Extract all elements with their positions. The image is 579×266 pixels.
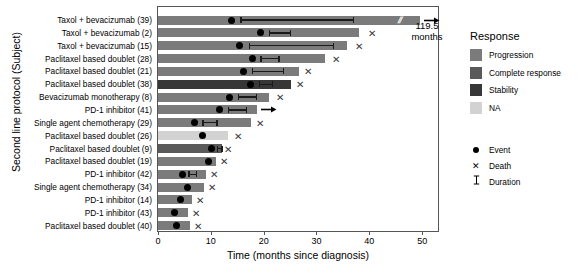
x-tick-mark [158, 232, 159, 235]
death-marker: ✕ [220, 157, 228, 166]
death-marker: ✕ [332, 55, 340, 64]
subject-bar [158, 54, 325, 63]
y-tick-label: PD-1 inhibitor (14) [18, 196, 152, 205]
legend-swatch [470, 84, 482, 96]
duration-start-cap [260, 56, 261, 62]
death-marker: ✕ [276, 93, 284, 102]
legend-swatch [470, 49, 482, 61]
y-tick-label: Paclitaxel based doublet (38) [18, 80, 152, 89]
duration-line [259, 84, 272, 85]
x-tick-mark [316, 232, 317, 235]
death-marker: ✕ [355, 42, 363, 51]
death-marker: ✕ [194, 222, 202, 231]
x-tick-mark [264, 232, 265, 235]
event-marker [249, 55, 256, 62]
duration-start-cap [202, 120, 203, 126]
annotation-line-2: months [404, 31, 450, 42]
x-tick-mark [422, 232, 423, 235]
duration-line [240, 19, 353, 20]
duration-start-cap [252, 68, 253, 74]
death-marker: ✕ [196, 196, 204, 205]
y-tick-label: Paclitaxel based doublet (21) [18, 67, 152, 76]
x-tick-mark [369, 232, 370, 235]
event-marker [205, 158, 212, 165]
marker-legend-item[interactable]: ✕Death [470, 159, 579, 172]
legend-item[interactable]: Progression [470, 48, 579, 62]
death-marker: ✕ [304, 67, 312, 76]
duration-start-cap [238, 94, 239, 100]
ongoing-arrow-icon [261, 105, 277, 114]
duration-start-cap [269, 30, 270, 36]
subject-bar [158, 195, 192, 204]
duration-end-cap [272, 81, 273, 87]
y-tick-label: PD-1 inhibitor (42) [18, 170, 152, 179]
event-marker [240, 68, 247, 75]
y-tick-label: Taxol + bevacizumab (39) [18, 16, 152, 25]
legend-swatch [470, 102, 482, 114]
y-tick-labels: Taxol + bevacizumab (39)Taxol + bevacizu… [18, 8, 152, 228]
plot-area: //✕✕✕✕✕✕✕✕✕✕✕✕✕✕✕ [158, 7, 438, 231]
y-tick-label: Bevacizumab monotherapy (8) [18, 93, 152, 102]
y-tick-label: Taxol + bevacizumab (2) [18, 29, 152, 38]
duration-end-cap [353, 17, 354, 23]
duration-end-cap [196, 171, 197, 177]
dot-icon [470, 144, 482, 156]
event-marker [228, 17, 235, 24]
chart-root: Second line protocol (Subject) Taxol + b… [0, 0, 579, 266]
x-tick-label: 10 [191, 236, 231, 246]
duration-end-cap [246, 107, 247, 113]
duration-line [249, 45, 333, 46]
duration-end-cap [221, 146, 222, 152]
response-legend: Response ProgressionComplete responseSta… [470, 30, 579, 118]
event-marker [199, 132, 206, 139]
x-tick-mark [211, 232, 212, 235]
x-tick-label: 40 [349, 236, 389, 246]
subject-bar [158, 183, 204, 192]
duration-end-cap [216, 120, 217, 126]
x-tick-label: 30 [296, 236, 336, 246]
subject-bar [158, 131, 228, 140]
legend-item-label: Complete response [489, 68, 561, 78]
death-marker: ✕ [224, 145, 232, 154]
y-tick-label: Paclitaxel based doublet (40) [18, 222, 152, 231]
x-tick-label: 50 [402, 236, 442, 246]
annotation-line-1: 119.5 [404, 20, 450, 31]
event-marker [184, 184, 191, 191]
death-marker: ✕ [192, 209, 200, 218]
legend-title: Response [470, 30, 579, 42]
event-marker [226, 94, 233, 101]
x-tick-label: 20 [244, 236, 284, 246]
event-marker [247, 81, 254, 88]
event-marker [179, 171, 186, 178]
duration-end-cap [333, 43, 334, 49]
event-marker [236, 42, 243, 49]
duration-start-cap [259, 81, 260, 87]
duration-start-cap [188, 171, 189, 177]
y-tick-label: Taxol + bevacizumab (15) [18, 42, 152, 51]
duration-line [260, 58, 278, 59]
y-tick-label: Single agent chemotherapy (29) [18, 119, 152, 128]
x-axis-title: Time (months since diagnosis) [157, 249, 439, 261]
legend-item-label: NA [489, 103, 501, 113]
death-marker: ✕ [256, 119, 264, 128]
marker-legend-item[interactable]: Event [470, 143, 579, 156]
marker-legend-label: Event [489, 145, 510, 155]
duration-line [202, 122, 216, 123]
legend-item-label: Progression [489, 50, 533, 60]
legend-item[interactable]: NA [470, 101, 579, 115]
duration-line [228, 109, 246, 110]
marker-legend-label: Death [489, 161, 511, 171]
duration-line [269, 32, 290, 33]
annotation-119-months: 119.5 months [404, 20, 450, 42]
cross-icon: ✕ [470, 160, 482, 172]
event-marker [208, 145, 215, 152]
duration-end-cap [283, 68, 284, 74]
marker-legend-item[interactable]: Duration [470, 175, 579, 188]
marker-legend: Event✕DeathDuration [470, 143, 579, 191]
legend-item[interactable]: Stability [470, 83, 579, 97]
marker-legend-label: Duration [489, 177, 520, 187]
y-tick-label: Paclitaxel based doublet (19) [18, 157, 152, 166]
legend-item[interactable]: Complete response [470, 66, 579, 80]
y-tick-label: PD-1 inhibitor (43) [18, 209, 152, 218]
death-marker: ✕ [368, 29, 376, 38]
